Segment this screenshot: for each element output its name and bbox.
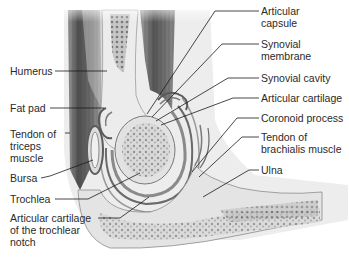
label-articular-cartilage: Articular cartilage — [261, 92, 342, 104]
label-ulna: Ulna — [261, 164, 283, 176]
label-text: triceps — [10, 140, 56, 152]
label-synovial-membrane: Synovial membrane — [261, 38, 311, 62]
label-text: Fat pad — [10, 102, 46, 114]
label-articular-cartilage-trochlear-notch: Articular cartilage of the trochlear not… — [10, 212, 91, 248]
label-tendon-brachialis: Tendon of brachialis muscle — [261, 131, 342, 155]
label-trochlea: Trochlea — [10, 193, 50, 205]
label-text: Articular cartilage — [10, 212, 91, 224]
label-tendon-triceps: Tendon of triceps muscle — [10, 128, 56, 164]
label-humerus: Humerus — [10, 65, 53, 77]
label-text: Tendon of — [10, 128, 56, 140]
label-text: notch — [10, 236, 91, 248]
label-text: muscle — [10, 152, 56, 164]
label-text: Humerus — [10, 65, 53, 77]
label-text: brachialis muscle — [261, 143, 342, 155]
label-fat-pad: Fat pad — [10, 102, 46, 114]
label-synovial-cavity: Synovial cavity — [261, 72, 330, 84]
label-text: Bursa — [10, 172, 37, 184]
label-text: of the trochlear — [10, 224, 91, 236]
elbow-joint-diagram: Humerus Fat pad Tendon of triceps muscle… — [0, 0, 349, 257]
label-text: Synovial — [261, 38, 311, 50]
label-text: Trochlea — [10, 193, 50, 205]
label-text: Ulna — [261, 164, 283, 176]
label-articular-capsule: Articular capsule — [261, 5, 300, 29]
label-bursa: Bursa — [10, 172, 37, 184]
label-text: Articular — [261, 5, 300, 17]
label-text: membrane — [261, 50, 311, 62]
label-text: Coronoid process — [261, 112, 343, 124]
label-text: Tendon of — [261, 131, 342, 143]
label-text: Synovial cavity — [261, 72, 330, 84]
label-text: capsule — [261, 17, 300, 29]
label-coronoid-process: Coronoid process — [261, 112, 343, 124]
label-text: Articular cartilage — [261, 92, 342, 104]
